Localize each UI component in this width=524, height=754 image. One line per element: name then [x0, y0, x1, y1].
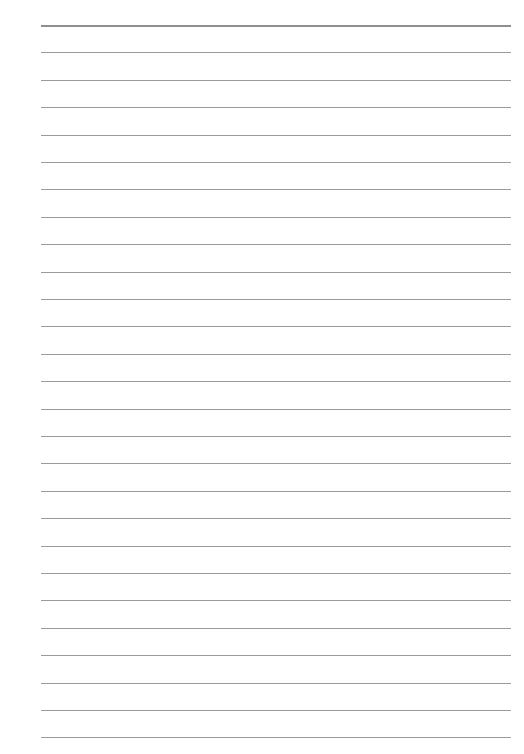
rule-line [41, 381, 511, 382]
rule-line [41, 737, 511, 738]
rule-line [41, 683, 511, 684]
rule-line [41, 162, 511, 163]
rule-line [41, 463, 511, 464]
rule-line [41, 710, 511, 711]
rule-line [41, 409, 511, 410]
top-rule-line [41, 25, 511, 27]
rule-line [41, 272, 511, 273]
rule-line [41, 107, 511, 108]
rule-line [41, 655, 511, 656]
rule-line [41, 135, 511, 136]
rule-line [41, 354, 511, 355]
rule-line [41, 217, 511, 218]
rule-line [41, 326, 511, 327]
rule-line [41, 573, 511, 574]
rule-line [41, 491, 511, 492]
rule-line [41, 546, 511, 547]
rule-line [41, 52, 511, 53]
rule-line [41, 436, 511, 437]
rule-line [41, 628, 511, 629]
rule-line [41, 299, 511, 300]
rule-line [41, 518, 511, 519]
rule-line [41, 600, 511, 601]
rule-line [41, 80, 511, 81]
rule-line [41, 189, 511, 190]
rule-line [41, 244, 511, 245]
